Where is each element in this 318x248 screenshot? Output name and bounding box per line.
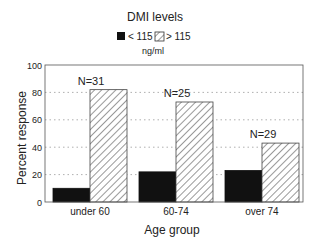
y-axis-ticks: 020406080100: [27, 61, 42, 208]
y-tick-label: 40: [32, 143, 42, 153]
x-tick-label: under 60: [70, 206, 110, 217]
bar-low: [225, 170, 262, 202]
bar-chart: DMI levels < 115 > 115 ng/ml Percent res…: [0, 0, 318, 248]
chart-title: DMI levels: [127, 10, 183, 24]
x-axis-ticks: under 6060-74over 74: [70, 206, 279, 217]
y-axis-label: Percent response: [15, 91, 29, 185]
bar-high: [262, 143, 299, 202]
bars: [53, 90, 299, 202]
x-tick-label: 60-74: [163, 206, 189, 217]
sample-size-label: N=31: [78, 75, 105, 87]
y-tick-label: 0: [37, 198, 42, 208]
y-tick-label: 20: [32, 170, 42, 180]
y-tick-label: 100: [27, 61, 42, 71]
legend-label-high: > 115: [166, 31, 191, 42]
bar-high: [176, 102, 213, 202]
legend-unit: ng/ml: [142, 46, 164, 56]
sample-size-label: N=25: [164, 87, 191, 99]
y-tick-label: 60: [32, 115, 42, 125]
legend-label-low: < 115: [128, 31, 153, 42]
y-tick-label: 80: [32, 88, 42, 98]
bar-low: [139, 172, 176, 202]
x-axis-label: Age group: [144, 223, 200, 237]
legend: < 115 > 115 ng/ml: [117, 31, 191, 56]
x-tick-label: over 74: [245, 206, 279, 217]
legend-swatch-hatched: [155, 32, 164, 41]
sample-size-label: N=29: [250, 128, 277, 140]
bar-high: [90, 90, 127, 202]
bar-low: [53, 188, 90, 202]
legend-swatch-solid: [117, 32, 125, 40]
